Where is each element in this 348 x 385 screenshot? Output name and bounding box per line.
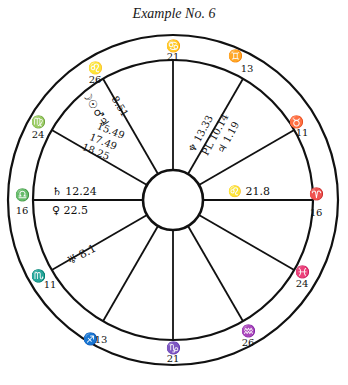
cusp-sign-pisces: ♓ bbox=[295, 265, 310, 279]
cusp-degree-cancer: 21 bbox=[167, 51, 180, 62]
cusp-degree-pisces: 24 bbox=[296, 278, 309, 289]
uranus-label: ♅ 8.1 bbox=[65, 242, 98, 268]
house-lines bbox=[33, 60, 313, 340]
cusp-degree-aries: 16 bbox=[310, 207, 323, 218]
cusp-sign-aquarius: ♒ bbox=[241, 324, 256, 338]
cusp-sign-leo: ♌ bbox=[88, 61, 103, 75]
cusp-sign-libra: ♎ bbox=[15, 188, 30, 202]
cusp-degree-gemini: 13 bbox=[241, 63, 254, 74]
cusp-degree-aquarius: 26 bbox=[242, 337, 255, 348]
jupiter-position: 8.51 bbox=[109, 94, 130, 119]
cusp-degree-sagittarius: 13 bbox=[95, 334, 108, 345]
hub-circle bbox=[143, 170, 203, 230]
cusp-degree-libra: 16 bbox=[16, 205, 29, 216]
saturn-label: ♄ 12.24 bbox=[52, 185, 97, 198]
astrology-chart-wheel: ♋ 21 ♊ 13 ♉ 11 ♈ 16 ♓ 24 ♒ 26 ♑ 21 ♐ 13 … bbox=[0, 0, 348, 385]
cusp-degree-leo: 26 bbox=[89, 74, 102, 85]
cusp-degree-scorpio: 11 bbox=[44, 279, 57, 290]
cusp-degree-capricorn: 21 bbox=[167, 353, 180, 364]
venus-label: ♀ 22.5 bbox=[52, 204, 88, 217]
cusp-degree-virgo: 24 bbox=[32, 129, 45, 140]
cusp-sign-virgo: ♍ bbox=[31, 115, 46, 129]
cusp-sign-aries: ♈ bbox=[309, 187, 324, 201]
cusp-degree-taurus: 11 bbox=[296, 127, 309, 138]
leo-node-label: ♌ 21.8 bbox=[228, 185, 270, 198]
cusp-sign-gemini: ♊ bbox=[228, 49, 243, 63]
